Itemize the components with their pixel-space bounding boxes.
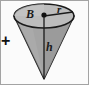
cone-diagram-svg: B r h + bbox=[0, 0, 89, 85]
center-point-dot bbox=[41, 12, 46, 17]
label-base-area: B bbox=[25, 7, 34, 21]
plus-operator: + bbox=[1, 32, 10, 49]
cone-figure: B r h + bbox=[0, 0, 89, 85]
label-radius: r bbox=[57, 3, 62, 15]
label-height: h bbox=[46, 40, 53, 54]
